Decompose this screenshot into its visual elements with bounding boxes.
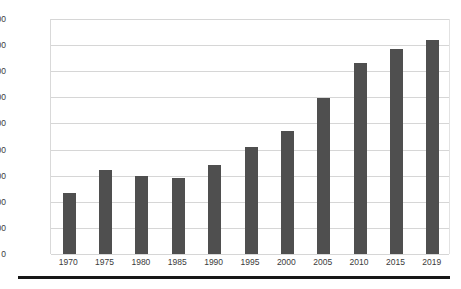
y-tick-label: 400,000 xyxy=(0,145,6,154)
x-tick-label: 2019 xyxy=(412,258,452,267)
gridline xyxy=(51,45,449,46)
y-tick-label: 0 xyxy=(0,250,6,259)
bar xyxy=(354,63,367,254)
x-tick-label: 1980 xyxy=(121,258,161,267)
x-tick-label: 1985 xyxy=(157,258,197,267)
x-tick-label: 2010 xyxy=(339,258,379,267)
y-tick-label: 500,000 xyxy=(0,119,6,128)
bar xyxy=(245,147,258,254)
bar xyxy=(135,176,148,254)
gridline xyxy=(51,19,449,20)
bar xyxy=(390,49,403,254)
plot-area xyxy=(50,19,450,254)
bar xyxy=(281,131,294,254)
y-tick-label: 600,000 xyxy=(0,93,6,102)
y-tick-label: 100,000 xyxy=(0,224,6,233)
y-tick-label: 200,000 xyxy=(0,198,6,207)
bar-chart-figure: 0100,000200,000300,000400,000500,000600,… xyxy=(0,0,461,289)
y-tick-label: 900,000 xyxy=(0,15,6,24)
gridline xyxy=(51,254,449,255)
y-tick-label: 700,000 xyxy=(0,67,6,76)
bar xyxy=(63,193,76,254)
x-tick-label: 2005 xyxy=(303,258,343,267)
x-tick-label: 1970 xyxy=(48,258,88,267)
bar xyxy=(172,178,185,255)
bar xyxy=(208,165,221,254)
bottom-rule xyxy=(18,276,450,279)
x-tick-label: 2000 xyxy=(266,258,306,267)
bar xyxy=(317,98,330,254)
y-tick-label: 300,000 xyxy=(0,171,6,180)
x-tick-label: 1990 xyxy=(194,258,234,267)
x-tick-label: 1995 xyxy=(230,258,270,267)
x-tick-label: 2015 xyxy=(375,258,415,267)
bar xyxy=(99,170,112,254)
y-tick-label: 800,000 xyxy=(0,41,6,50)
x-tick-label: 1975 xyxy=(85,258,125,267)
bar xyxy=(426,40,439,254)
